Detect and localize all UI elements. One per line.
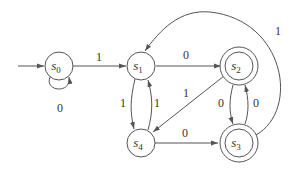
edge-label-s4-s1: 1 <box>154 96 160 110</box>
state-s0: s0 <box>45 52 73 80</box>
state-s1: s1 <box>127 52 155 80</box>
fsa-diagram: 0 1 0 1 1 1 0 0 0 1 s0 s1 s2 s3 <box>0 0 296 170</box>
edge-s1-s4 <box>131 79 135 129</box>
edge-label-s2-s4: 1 <box>183 86 189 100</box>
edge-label-s4-s3: 0 <box>182 126 188 140</box>
edge-label-s3-s1: 1 <box>275 24 281 38</box>
edge-s3-s1 <box>145 12 281 135</box>
state-s4: s4 <box>127 129 155 157</box>
edge-s4-s1 <box>148 80 152 130</box>
edge-label-s1-s2: 0 <box>183 48 189 62</box>
edge-label-s0-s1: 1 <box>96 50 102 64</box>
state-s2: s2 <box>220 47 258 85</box>
edge-s3-s2 <box>245 85 248 124</box>
edge-label-s3-s2: 0 <box>253 96 259 110</box>
edge-label-s1-s4: 1 <box>120 96 126 110</box>
edge-label-s0-s0: 0 <box>57 101 63 115</box>
edge-s2-s4 <box>153 76 224 132</box>
edge-s2-s3 <box>230 85 233 124</box>
state-s3: s3 <box>220 124 258 162</box>
edge-label-s2-s3: 0 <box>218 96 224 110</box>
